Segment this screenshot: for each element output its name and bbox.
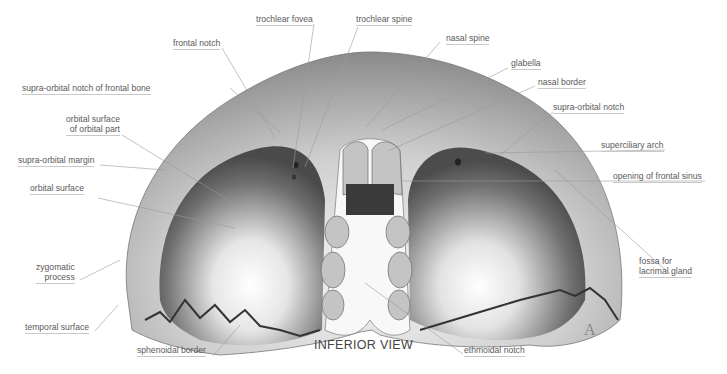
label-line-2: lacrimal gland: [639, 266, 692, 276]
view-title: INFERIOR VIEW: [314, 338, 413, 352]
label-sphenoidal-border: sphenoidal border: [137, 345, 206, 357]
label-line-1: fossa for: [639, 256, 692, 266]
frontal-bone-illustration: [0, 0, 727, 374]
label-frontal-notch: frontal notch: [173, 38, 220, 50]
label-superciliary-arch: superciliary arch: [601, 140, 664, 152]
label-orbital-surface: orbital surface: [30, 183, 84, 195]
label-orbital-surface-of-orbital-part: orbital surface of orbital part: [66, 114, 120, 136]
label-line-2: of orbital part: [66, 124, 120, 134]
label-trochlear-fovea: trochlear fovea: [256, 14, 313, 26]
label-ethmoidal-notch: ethmoidal notch: [464, 345, 525, 357]
label-line-1: orbital surface: [66, 114, 120, 124]
label-nasal-border: nasal border: [538, 77, 586, 89]
label-nasal-spine: nasal spine: [446, 33, 489, 45]
label-supra-orbital-margin: supra-orbital margin: [18, 155, 94, 167]
label-line-1: zygomatic: [36, 262, 75, 272]
label-supra-orbital-notch: supra-orbital notch: [553, 102, 624, 114]
panel-letter: A: [584, 321, 596, 339]
label-supra-orbital-notch-of-frontal-bone: supra-orbital notch of frontal bone: [22, 83, 151, 95]
label-trochlear-spine: trochlear spine: [356, 14, 412, 26]
label-glabella: glabella: [511, 58, 541, 70]
label-zygomatic-process: zygomatic process: [36, 262, 75, 284]
label-line-2: process: [36, 272, 75, 282]
label-opening-of-frontal-sinus: opening of frontal sinus: [613, 171, 702, 183]
label-temporal-surface: temporal surface: [25, 322, 89, 334]
anatomy-diagram: trochlear fovea trochlear spine frontal …: [0, 0, 727, 374]
label-fossa-for-lacrimal-gland: fossa for lacrimal gland: [639, 256, 692, 278]
